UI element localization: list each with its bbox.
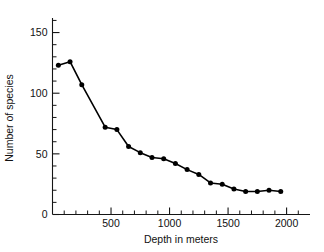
data-point: [161, 156, 166, 161]
x-axis-tick-labels: 500100015002000: [102, 217, 298, 229]
x-tick-label: 1000: [158, 217, 182, 229]
y-tick-label: 100: [30, 87, 48, 99]
species-depth-line-chart: 050100150 500100015002000 Depth in meter…: [0, 0, 324, 252]
axes: [53, 18, 311, 215]
x-tick-label: 1500: [216, 217, 240, 229]
y-axis-tick-labels: 050100150: [30, 26, 48, 220]
series-markers: [56, 59, 283, 194]
data-point: [103, 125, 108, 130]
data-point: [208, 180, 213, 185]
data-point: [243, 189, 248, 194]
y-axis-major-ticks: [53, 33, 60, 215]
series-line-number-of-species: [58, 62, 280, 192]
data-point: [68, 59, 73, 64]
y-axis-title: Number of species: [3, 74, 15, 162]
x-axis-major-ticks: [111, 208, 287, 215]
x-axis-minor-ticks: [64, 211, 298, 215]
x-tick-label: 500: [102, 217, 120, 229]
data-point: [79, 82, 84, 87]
x-axis-title: Depth in meters: [144, 233, 218, 245]
chart-figure: 050100150 500100015002000 Depth in meter…: [0, 0, 324, 252]
y-tick-label: 50: [36, 148, 48, 160]
data-point: [267, 188, 272, 193]
y-tick-label: 150: [30, 26, 48, 38]
data-point: [114, 127, 119, 132]
data-point: [138, 150, 143, 155]
y-axis-minor-ticks: [53, 20, 57, 202]
data-point: [185, 167, 190, 172]
data-point: [255, 189, 260, 194]
data-point: [173, 161, 178, 166]
data-point: [149, 155, 154, 160]
x-tick-label: 2000: [275, 217, 299, 229]
y-tick-label: 0: [42, 208, 48, 220]
data-point: [220, 182, 225, 187]
data-point: [231, 187, 236, 192]
data-point: [196, 172, 201, 177]
data-point: [126, 144, 131, 149]
data-point: [56, 63, 61, 68]
data-point: [278, 189, 283, 194]
